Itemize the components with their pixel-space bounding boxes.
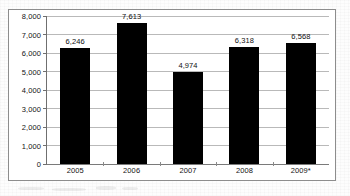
bar-slot: 6,246: [47, 16, 103, 164]
x-axis-tick-label: 2007: [160, 166, 216, 182]
bar-value-label: 6,246: [66, 37, 85, 46]
x-axis-tick-mark: [103, 162, 104, 166]
bar-value-label: 6,568: [291, 32, 310, 41]
x-axis-tick-label: 2009*: [273, 166, 329, 182]
chart-plot-wrapper: 01,0002,0003,0004,0005,0006,0007,0008,00…: [9, 10, 335, 180]
bar[interactable]: 4,974: [173, 72, 203, 164]
bar-chart: 01,0002,0003,0004,0005,0006,0007,0008,00…: [8, 9, 336, 181]
x-axis: 20052006200720082009*: [47, 166, 329, 182]
y-axis-tick-label: 3,000: [22, 104, 41, 113]
bar-value-label: 4,974: [178, 61, 197, 70]
plot-area: 6,2467,6134,9746,3186,568: [47, 16, 329, 164]
bar-value-label: 6,318: [235, 36, 254, 45]
bar[interactable]: 6,246: [60, 48, 90, 164]
y-axis-tick-label: 1,000: [22, 141, 41, 150]
bar-value-label: 7,613: [122, 12, 141, 21]
x-axis-tick-mark: [273, 162, 274, 166]
bar[interactable]: 6,318: [229, 47, 259, 164]
bar-slot: 4,974: [160, 16, 216, 164]
bar[interactable]: 7,613: [117, 23, 147, 164]
y-axis-tick-label: 0: [37, 160, 41, 169]
y-axis-tick-label: 8,000: [22, 12, 41, 21]
y-axis-tick-label: 2,000: [22, 123, 41, 132]
y-axis: 01,0002,0003,0004,0005,0006,0007,0008,00…: [9, 16, 45, 164]
x-axis-tick-label: 2006: [103, 166, 159, 182]
x-axis-tick-label: 2005: [47, 166, 103, 182]
y-axis-tick-label: 5,000: [22, 67, 41, 76]
x-axis-tick-label: 2008: [216, 166, 272, 182]
bar-slot: 6,318: [216, 16, 272, 164]
x-axis-tick-mark: [160, 162, 161, 166]
bar-slot: 6,568: [273, 16, 329, 164]
y-axis-tick-label: 7,000: [22, 30, 41, 39]
x-axis-tick-mark: [216, 162, 217, 166]
bar-slot: 7,613: [103, 16, 159, 164]
y-axis-tick-label: 6,000: [22, 49, 41, 58]
bar[interactable]: 6,568: [286, 43, 316, 165]
y-axis-tick-label: 4,000: [22, 86, 41, 95]
bar-series: 6,2467,6134,9746,3186,568: [47, 16, 329, 164]
